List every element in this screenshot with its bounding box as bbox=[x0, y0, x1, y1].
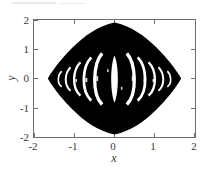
x-axis-title: x bbox=[111, 152, 116, 164]
y-tick bbox=[34, 137, 38, 138]
scan-artifact bbox=[12, 2, 56, 4]
x-tick-label: -1 bbox=[68, 141, 77, 152]
y-tick-label: -1 bbox=[20, 103, 29, 114]
plot-area bbox=[33, 19, 196, 138]
x-tick-label: 1 bbox=[150, 141, 156, 152]
scan-artifact bbox=[60, 3, 86, 4]
y-axis-title: y bbox=[5, 75, 17, 80]
x-tick-label: 2 bbox=[191, 141, 197, 152]
y-tick-label: -2 bbox=[20, 132, 29, 143]
attractor-plot bbox=[34, 20, 195, 137]
x-tick-label: -2 bbox=[28, 141, 37, 152]
figure: -2 -1 0 1 2 2 1 0 -1 -2 x y bbox=[0, 0, 211, 170]
y-tick-label: 1 bbox=[24, 44, 30, 55]
y-tick-label: 0 bbox=[24, 73, 30, 84]
y-tick-label: 2 bbox=[24, 15, 30, 26]
